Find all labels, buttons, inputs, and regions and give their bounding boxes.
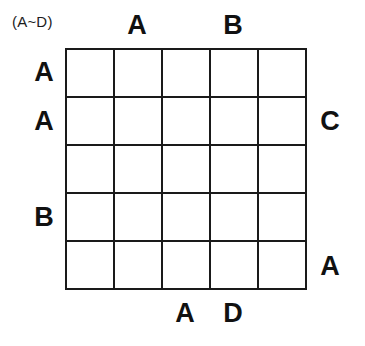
grid-cell-r2c1[interactable] [67, 98, 115, 146]
range-note: (A~D) [12, 14, 53, 29]
grid-cell-r5c3[interactable] [163, 242, 211, 290]
grid-cell-r1c2[interactable] [115, 50, 163, 98]
grid-cell-r1c4[interactable] [211, 50, 259, 98]
grid-cell-r2c4[interactable] [211, 98, 259, 146]
grid-cell-r2c3[interactable] [163, 98, 211, 146]
grid-cell-r5c4[interactable] [211, 242, 259, 290]
grid-cell-r1c5[interactable] [259, 50, 307, 98]
grid-cell-r3c4[interactable] [211, 146, 259, 194]
grid-cell-r4c2[interactable] [115, 194, 163, 242]
clue-left-row1: A [27, 59, 61, 86]
clue-bottom-col4: D [216, 300, 250, 327]
grid-lines [67, 50, 305, 288]
grid-cell-r5c5[interactable] [259, 242, 307, 290]
grid-cell-r3c3[interactable] [163, 146, 211, 194]
grid-cell-r1c1[interactable] [67, 50, 115, 98]
grid-cell-r5c2[interactable] [115, 242, 163, 290]
grid-cell-r2c2[interactable] [115, 98, 163, 146]
grid-cell-r4c1[interactable] [67, 194, 115, 242]
clue-right-row2: C [313, 108, 347, 135]
clue-left-row2: A [27, 108, 61, 135]
clue-right-row5: A [313, 253, 347, 280]
grid-cell-r1c3[interactable] [163, 50, 211, 98]
clue-top-col2: A [120, 12, 154, 39]
grid-cell-r3c1[interactable] [67, 146, 115, 194]
grid-cell-r3c2[interactable] [115, 146, 163, 194]
grid-cell-r4c4[interactable] [211, 194, 259, 242]
clue-bottom-col3: A [168, 300, 202, 327]
clue-top-col4: B [216, 12, 250, 39]
grid-cell-r4c3[interactable] [163, 194, 211, 242]
grid-cell-r2c5[interactable] [259, 98, 307, 146]
clue-left-row4: B [27, 204, 61, 231]
grid-cell-r3c5[interactable] [259, 146, 307, 194]
grid-cell-r4c5[interactable] [259, 194, 307, 242]
grid-cell-r5c1[interactable] [67, 242, 115, 290]
puzzle-figure: (A~D) A B A D A A B C A [0, 0, 365, 346]
puzzle-grid [65, 48, 307, 290]
